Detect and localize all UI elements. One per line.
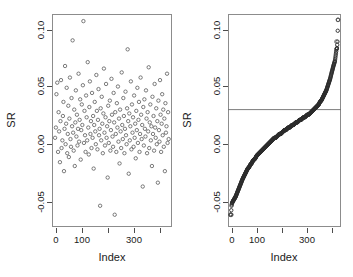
sorted-point xyxy=(336,29,339,32)
right-panel-sorted: 0.10 0.05 0.00 -0.05 0 100 300 SR Index xyxy=(0,0,353,277)
r-plot-figure: 0.10 0.05 0.00 -0.05 0 100 300 SR Index … xyxy=(0,0,353,277)
right-curve-layer xyxy=(0,0,353,277)
sorted-point xyxy=(230,209,233,212)
